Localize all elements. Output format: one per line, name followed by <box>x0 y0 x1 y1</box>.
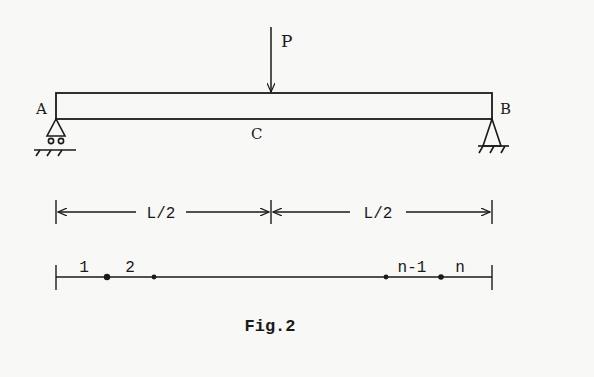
load-label: P <box>281 31 292 51</box>
right-span-label: L/2 <box>364 205 393 223</box>
left-span-label: L/2 <box>147 205 176 223</box>
pin-support-icon <box>478 119 509 153</box>
node-dot <box>152 275 157 280</box>
dimension-line <box>56 200 492 224</box>
support-label-a: A <box>35 100 47 118</box>
midpoint-label-c: C <box>251 125 262 143</box>
node-label-n-minus-1: n-1 <box>398 259 427 277</box>
node-dot <box>104 274 110 280</box>
roller-support-icon <box>34 119 76 156</box>
diagram-canvas: P A B C L/2 L/2 1 <box>0 0 594 377</box>
node-label-n: n <box>455 259 465 277</box>
node-line <box>56 265 492 290</box>
node-dot <box>438 274 444 280</box>
support-label-b: B <box>500 100 511 118</box>
beam-diagram: P A B C L/2 L/2 1 <box>0 0 594 377</box>
beam <box>56 93 492 119</box>
node-dot <box>384 275 389 280</box>
figure-caption: Fig.2 <box>244 317 295 336</box>
node-label-2: 2 <box>125 259 135 277</box>
node-label-1: 1 <box>79 259 89 277</box>
